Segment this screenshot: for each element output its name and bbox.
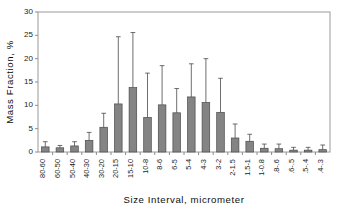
x-tick-label: 60-50	[53, 159, 62, 178]
y-tick-label: 10	[24, 100, 33, 109]
bar	[100, 127, 108, 152]
x-tick-label: 15-10	[126, 159, 135, 178]
bar	[158, 105, 166, 152]
y-tick-label: 25	[24, 30, 33, 39]
y-tick-label: 20	[24, 54, 33, 63]
x-tick-label: 6-5	[170, 159, 179, 170]
bar	[290, 150, 298, 152]
bar	[188, 97, 196, 152]
bar	[275, 149, 283, 152]
bar	[56, 148, 64, 152]
y-tick-label: 0	[29, 147, 34, 156]
x-tick-label: 3-2	[214, 159, 223, 170]
y-tick-label: 30	[24, 7, 33, 16]
x-tick-label: 50-40	[68, 159, 77, 178]
bar	[217, 112, 225, 152]
bar	[71, 146, 79, 152]
bar	[173, 113, 181, 152]
bar	[85, 140, 93, 152]
x-tick-label: 4-3	[199, 159, 208, 170]
x-tick-label: .8-.6	[272, 159, 281, 174]
bar	[231, 138, 239, 152]
x-tick-label: 40-30	[82, 159, 91, 178]
bar	[42, 147, 50, 152]
bar	[115, 104, 123, 152]
x-tick-label: 80-60	[38, 159, 47, 178]
bar	[202, 103, 210, 152]
x-tick-label: 20-15	[111, 159, 120, 178]
y-tick-label: 5	[29, 124, 34, 133]
x-tick-label: 30-20	[97, 159, 106, 178]
bar	[319, 150, 327, 152]
chart-canvas: 05101520253080-6060-5050-4040-3030-2020-…	[0, 0, 358, 213]
plot-frame	[38, 12, 330, 152]
x-axis-title: Size Interval, micrometer	[123, 194, 244, 205]
x-tick-label: 2-1.5	[228, 159, 237, 176]
bar	[144, 117, 152, 152]
x-tick-label: .5-.4	[301, 159, 310, 174]
bar	[246, 141, 254, 152]
x-tick-label: 1.5-1	[243, 159, 252, 176]
y-axis-title: Mass Fraction, %	[4, 40, 15, 124]
x-tick-label: 10-8	[141, 159, 150, 174]
bar	[304, 150, 312, 152]
x-tick-label: .4-.3	[316, 159, 325, 174]
bar	[129, 88, 137, 152]
bar	[261, 148, 269, 152]
x-tick-label: 5-4	[184, 159, 193, 170]
x-tick-label: .6-.5	[287, 159, 296, 174]
x-tick-label: 1-0.8	[257, 159, 266, 176]
x-tick-label: 8-6	[155, 159, 164, 170]
mass-fraction-bar-chart: 05101520253080-6060-5050-4040-3030-2020-…	[0, 0, 358, 213]
y-tick-label: 15	[24, 77, 33, 86]
